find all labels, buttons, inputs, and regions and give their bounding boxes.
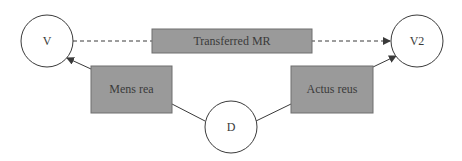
v2-label: V2: [410, 34, 425, 48]
v-label: V: [43, 34, 52, 48]
mens-rea-label: Mens rea: [109, 82, 154, 96]
transferred-mr-box: Transferred MR: [152, 29, 312, 53]
diagram-canvas: Transferred MR Mens rea Actus reus V V2 …: [0, 0, 462, 161]
actus-reus-to-v2-edge: [373, 56, 396, 67]
actus-reus-label: Actus reus: [307, 82, 358, 96]
transferred-mr-label: Transferred MR: [193, 34, 270, 48]
v2-node: V2: [391, 15, 443, 67]
d-to-actus-reus-edge: [256, 104, 291, 121]
d-node: D: [205, 101, 257, 153]
d-label: D: [227, 120, 236, 134]
mens-rea-to-v-edge: [67, 58, 91, 69]
actus-reus-box: Actus reus: [291, 66, 373, 113]
v-node: V: [21, 15, 73, 67]
mens-rea-box: Mens rea: [91, 66, 172, 113]
d-to-mens-rea-edge: [172, 104, 205, 121]
